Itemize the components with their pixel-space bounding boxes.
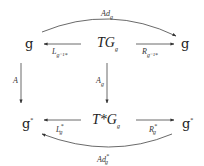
node-bottom-left: g* bbox=[22, 113, 33, 131]
node-bottom-center: T*Gg bbox=[92, 113, 120, 133]
label-ad-top: Adg bbox=[101, 10, 113, 21]
label-ad-bottom: Ad*g bbox=[97, 152, 108, 166]
node-top-left: g bbox=[25, 37, 33, 51]
node-top-center: TGg bbox=[97, 36, 118, 56]
label-left-bottom: L*g bbox=[56, 122, 62, 136]
label-right-bottom: R*g bbox=[149, 122, 156, 136]
arrow-ad-top bbox=[42, 19, 176, 36]
label-left-top: Lg⁻¹* bbox=[52, 48, 67, 59]
node-top-right: g bbox=[181, 37, 189, 51]
label-left-vertical: A bbox=[13, 77, 18, 85]
node-bottom-right: g* bbox=[182, 113, 193, 131]
label-right-top: Rg⁻¹* bbox=[142, 48, 158, 59]
label-center-vertical: Ag bbox=[96, 77, 104, 88]
